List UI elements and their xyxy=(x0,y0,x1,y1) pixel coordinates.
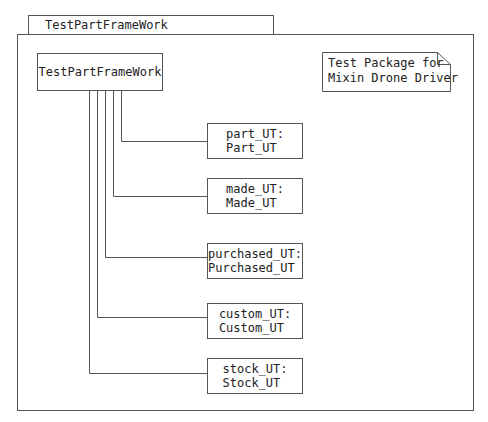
connector-made xyxy=(114,91,208,197)
connector-stock xyxy=(90,91,208,374)
component-type: Purchased_UT xyxy=(208,261,302,275)
component-part[interactable]: part_UT: Part_UT xyxy=(207,123,303,159)
component-purchased[interactable]: purchased_UT: Purchased_UT xyxy=(207,243,303,279)
note-line-2: Mixin Drone Driver xyxy=(328,71,458,86)
connector-part xyxy=(122,91,208,142)
connector-purchased xyxy=(106,91,208,258)
component-type: Stock_UT xyxy=(222,376,287,390)
component-instance: custom_UT: xyxy=(219,307,291,321)
component-stock[interactable]: stock_UT: Stock_UT xyxy=(207,358,303,394)
component-instance: purchased_UT: xyxy=(208,247,302,261)
component-type: Custom_UT xyxy=(219,321,291,335)
component-instance: part_UT: xyxy=(226,127,284,141)
main-component-label: TestPartFrameWork xyxy=(39,65,162,79)
note: Test Package for Mixin Drone Driver xyxy=(322,52,451,92)
component-type: Made_UT xyxy=(226,196,284,210)
component-instance: stock_UT: xyxy=(222,362,287,376)
main-component-box[interactable]: TestPartFrameWork xyxy=(37,53,163,91)
component-custom[interactable]: custom_UT: Custom_UT xyxy=(207,303,303,339)
component-made[interactable]: made_UT: Made_UT xyxy=(207,178,303,214)
component-type: Part_UT xyxy=(226,141,284,155)
note-line-1: Test Package for xyxy=(328,56,458,71)
component-instance: made_UT: xyxy=(226,182,284,196)
